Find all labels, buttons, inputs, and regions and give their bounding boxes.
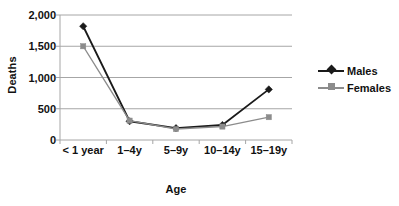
data-point-males-0 bbox=[80, 23, 87, 30]
legend-marker-diamond-icon bbox=[327, 65, 337, 75]
data-point-females-3 bbox=[220, 124, 225, 129]
data-point-females-2 bbox=[173, 126, 178, 131]
plot-area bbox=[0, 0, 399, 206]
data-point-females-0 bbox=[81, 44, 86, 49]
series-line-females bbox=[83, 46, 269, 129]
x-tick-label: 1–4y bbox=[117, 144, 141, 156]
x-tick-label: 5–9y bbox=[164, 144, 188, 156]
legend-item-males[interactable]: Males bbox=[318, 62, 391, 79]
legend-key-females-icon bbox=[318, 82, 344, 93]
legend-label: Females bbox=[347, 82, 391, 94]
x-tick-label: 10–14y bbox=[204, 144, 241, 156]
x-tick-label: 15–19y bbox=[250, 144, 287, 156]
x-tick-label: < 1 year bbox=[63, 144, 104, 156]
chart-legend: MalesFemales bbox=[318, 62, 391, 96]
data-point-females-1 bbox=[127, 118, 132, 123]
legend-key-males-icon bbox=[318, 65, 344, 76]
data-point-females-4 bbox=[266, 115, 271, 120]
legend-marker-square-icon bbox=[328, 83, 335, 90]
legend-item-females[interactable]: Females bbox=[318, 79, 391, 96]
x-axis-title: Age bbox=[60, 183, 292, 195]
legend-label: Males bbox=[347, 65, 378, 77]
deaths-by-age-line-chart: Deaths 05001,0001,5002,000 < 1 year1–4y5… bbox=[0, 0, 399, 206]
